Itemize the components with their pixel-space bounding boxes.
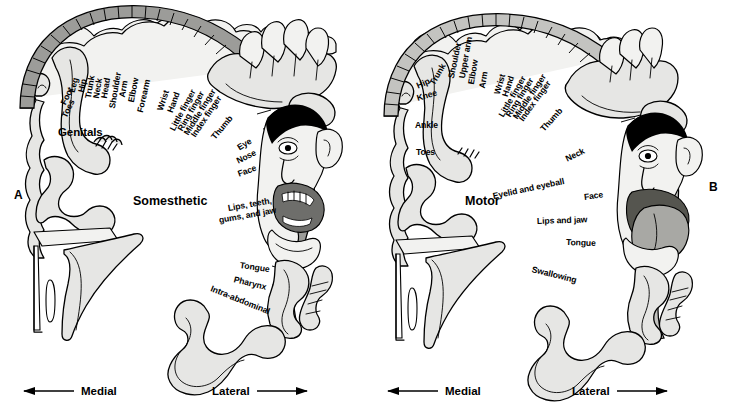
panel-b-artwork (368, 0, 736, 411)
label-ankle: Ankle (415, 121, 438, 130)
label-tongue: Tongue (566, 238, 596, 248)
axis-medial-a: Medial (22, 385, 117, 397)
label-genitals: Genitals (58, 127, 103, 139)
axis-medial-a-label: Medial (81, 385, 117, 397)
arrow-right-icon (255, 385, 309, 397)
panel-a-center-label: Somesthetic (133, 194, 207, 208)
axis-medial-b: Medial (386, 385, 481, 397)
axis-medial-b-label: Medial (445, 385, 481, 397)
axis-lateral-b: Lateral (572, 385, 669, 397)
panel-motor: B Motor Toes Ankle Knee Hip Trunk Should… (368, 0, 736, 411)
axis-lateral-a: Lateral (212, 385, 309, 397)
arrow-left-icon (22, 385, 76, 397)
arrow-right-icon (615, 385, 669, 397)
panel-a-letter: A (14, 188, 23, 202)
arrow-left-icon (386, 385, 440, 397)
panel-somesthetic: A Somesthetic Genitals Toes Foot Leg Hip… (0, 0, 368, 411)
axis-lateral-a-label: Lateral (212, 385, 250, 397)
label-lips-and-jaw: Lips and jaw (537, 215, 588, 225)
label-toes: Toes (416, 148, 435, 157)
panel-b-letter: B (709, 180, 718, 194)
homunculus-figure: A Somesthetic Genitals Toes Foot Leg Hip… (0, 0, 736, 411)
axis-lateral-b-label: Lateral (572, 385, 610, 397)
